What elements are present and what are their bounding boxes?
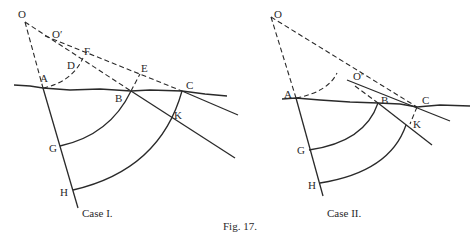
case2-line-OA: [271, 17, 296, 98]
case1-arc-CH: [73, 91, 182, 190]
case1-label-A: A: [40, 72, 48, 84]
case2-line-Oprime-ray: [347, 80, 450, 121]
case2-title: Case II.: [327, 207, 361, 219]
case1-label-O: O: [18, 8, 26, 20]
case-2-diagram: O O′ A B C K G H Case II.: [271, 8, 470, 219]
case2-line-B-ray: [378, 103, 432, 145]
figure-17: O O′ F D E A B C K G H Case I. O O′: [0, 0, 476, 239]
case1-label-K: K: [174, 109, 182, 121]
case1-label-E: E: [141, 62, 148, 74]
case2-label-Oprime: O′: [353, 70, 363, 82]
case1-title: Case I.: [82, 207, 113, 219]
case1-label-C: C: [186, 79, 193, 91]
case1-label-G: G: [49, 142, 57, 154]
case1-label-Oprime: O′: [52, 28, 62, 40]
case2-arc-BG: [309, 103, 378, 150]
case1-line-BE: [131, 74, 140, 91]
case1-label-F: F: [84, 45, 90, 57]
case2-label-C: C: [422, 94, 429, 106]
case1-line-OprimeC: [45, 36, 182, 91]
case2-arc-A: [296, 73, 337, 98]
case2-label-K: K: [413, 118, 421, 130]
case1-label-B: B: [115, 92, 122, 104]
case2-label-O: O: [274, 8, 282, 20]
case2-line-OprimeB: [355, 86, 378, 103]
case2-line-OC: [271, 17, 417, 107]
case2-label-G: G: [297, 144, 305, 156]
case1-arc-AD: [43, 58, 83, 88]
case2-label-B: B: [381, 94, 388, 106]
case-1-diagram: O O′ F D E A B C K G H Case I.: [14, 8, 238, 219]
figure-caption: Fig. 17.: [223, 220, 257, 232]
case2-baseline: [282, 98, 470, 107]
case1-line-B-ray: [131, 91, 235, 158]
case2-label-A: A: [284, 88, 292, 100]
case2-arc-KH: [320, 125, 406, 183]
case1-label-H: H: [60, 186, 68, 198]
case2-label-H: H: [308, 179, 316, 191]
case1-label-D: D: [67, 59, 75, 71]
